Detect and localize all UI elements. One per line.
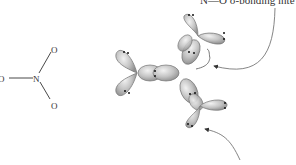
orbital-diagram — [115, 14, 227, 128]
lewis-o-bottom: O — [51, 101, 58, 111]
sigma-bonding-label: N—O σ-bonding inte — [200, 0, 295, 6]
lewis-structure — [9, 52, 51, 99]
lone-pair-arrow — [205, 129, 240, 160]
nitrate-diagram-svg: O N O O — [0, 0, 296, 165]
lewis-n-center: N — [33, 74, 40, 84]
lewis-o-left: O — [0, 74, 5, 84]
diagram-canvas: O N O O N—O σ-bonding inte — [0, 0, 296, 165]
lewis-o-top: O — [51, 45, 58, 55]
